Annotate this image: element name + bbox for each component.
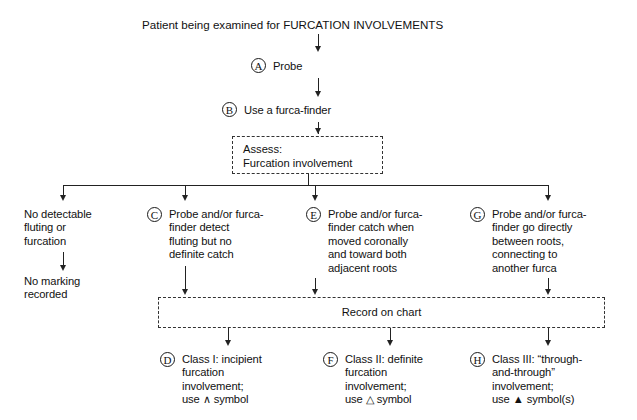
- branch-marker-e: E: [306, 207, 321, 222]
- branch-condition-e: Probe and/or furca- finder catch when mo…: [328, 208, 423, 275]
- branch-marker-g: G: [470, 207, 485, 222]
- branch-condition-none: No detectable fluting or furcation: [24, 208, 92, 248]
- connector-assess-to-bus: [308, 174, 309, 185]
- arrowhead-b-to-assess: [315, 128, 321, 134]
- branch-condition-g: Probe and/or furca- finder go directly b…: [492, 208, 587, 275]
- arrowhead-title-to-a: [315, 46, 321, 52]
- result-marker-d: D: [160, 352, 175, 367]
- arrowhead-c-to-record: [182, 289, 188, 295]
- result-label-f: Class II: definite furcation involvement…: [345, 353, 423, 407]
- result-label-d: Class I: incipient furcation involvement…: [182, 353, 262, 407]
- arrowhead-record-to-f: [387, 340, 393, 346]
- record-on-chart-label: Record on chart: [158, 305, 605, 319]
- arrowhead-record-to-h: [545, 340, 551, 346]
- arrowhead-branch-c: [182, 195, 188, 201]
- arrowhead-none-to-outcome: [60, 265, 66, 271]
- step-label-a: Probe: [273, 60, 302, 73]
- connector-c-to-record: [185, 266, 186, 291]
- branch-distribution-bar: [63, 185, 549, 186]
- furcation-involvement-flowchart: Patient being examined for FURCATION INV…: [0, 0, 637, 420]
- arrowhead-branch-g: [545, 195, 551, 201]
- branch-outcome-none: No marking recorded: [24, 275, 80, 302]
- branch-marker-c: C: [147, 207, 162, 222]
- flowchart-title: Patient being examined for FURCATION INV…: [142, 18, 443, 32]
- arrowhead-branch-e: [312, 195, 318, 201]
- result-label-h: Class III: “through- and-through” involv…: [492, 353, 582, 407]
- assess-box-label: Assess: Furcation involvement: [243, 142, 352, 170]
- step-label-b: Use a furca-finder: [244, 104, 331, 117]
- arrowhead-branch-none: [60, 195, 66, 201]
- arrowhead-a-to-b: [315, 91, 321, 97]
- arrowhead-g-to-record: [545, 289, 551, 295]
- branch-condition-c: Probe and/or furca- finder detect flutin…: [169, 208, 264, 262]
- step-marker-a: A: [251, 58, 266, 73]
- step-marker-b: B: [222, 102, 237, 117]
- result-marker-h: H: [470, 352, 485, 367]
- result-marker-f: F: [323, 352, 338, 367]
- arrowhead-record-to-d: [225, 340, 231, 346]
- arrowhead-e-to-record: [312, 289, 318, 295]
